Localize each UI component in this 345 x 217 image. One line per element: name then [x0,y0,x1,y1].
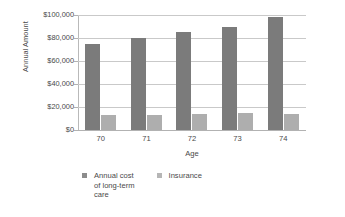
bar-group [260,15,306,130]
plot-area [78,15,306,130]
legend-item[interactable]: Insurance [157,171,202,181]
bar-group [78,15,124,130]
bar-cost-73[interactable] [222,27,237,131]
bar-group [124,15,170,130]
bar-insurance-72[interactable] [192,114,207,130]
bar-cost-72[interactable] [176,32,191,130]
x-axis-title: Age [78,150,306,158]
legend-label: Annual cost of long-term care [94,171,135,200]
bar-chart: Annual Amount $0$20,000$40,000$60,000$80… [0,0,345,217]
bar-group [215,15,261,130]
x-axis-tick-label: 72 [172,135,212,143]
y-axis-tick-label: $100,000 [14,11,74,18]
bar-insurance-71[interactable] [147,115,162,130]
y-axis-tick-label: $60,000 [14,57,74,64]
x-axis-tick-label: 70 [81,135,121,143]
gridline [78,130,306,131]
y-axis-tick-label: $40,000 [14,80,74,87]
y-axis-tick-label: $20,000 [14,103,74,110]
legend-swatch-icon [157,173,162,178]
y-axis-tick-label: $80,000 [14,34,74,41]
bar-cost-71[interactable] [131,38,146,130]
bar-insurance-73[interactable] [238,113,253,130]
legend-swatch-icon [82,173,87,178]
bar-group [169,15,215,130]
chart-legend: Annual cost of long-term careInsurance [82,171,202,200]
x-axis-tick-label: 74 [263,135,303,143]
bar-cost-70[interactable] [85,44,100,130]
legend-item[interactable]: Annual cost of long-term care [82,171,135,200]
x-axis-tick-label: 71 [126,135,166,143]
x-axis-tick-label: 73 [218,135,258,143]
bar-insurance-70[interactable] [101,115,116,130]
bar-cost-74[interactable] [268,17,283,130]
bar-insurance-74[interactable] [284,114,299,130]
legend-label: Insurance [169,171,202,181]
y-axis-tick-label: $0 [14,126,74,133]
